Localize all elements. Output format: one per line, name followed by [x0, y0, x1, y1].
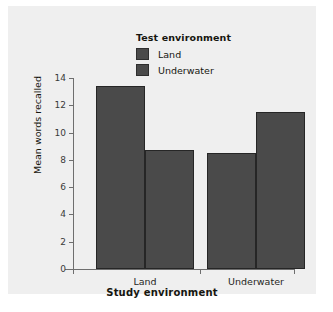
x-tick-start — [73, 269, 74, 274]
x-axis-title: Study environment — [8, 287, 316, 298]
y-tick-label: 14 — [55, 73, 66, 83]
legend-item-underwater: Underwater — [136, 64, 256, 76]
legend-item-land: Land — [136, 48, 256, 60]
y-tick-label: 10 — [55, 128, 66, 138]
y-tick-label: 2 — [60, 237, 66, 247]
plot-area: 0 2 4 6 8 10 12 14 — [73, 78, 295, 269]
x-category-label: Land — [133, 276, 156, 287]
legend-item-label: Land — [158, 49, 181, 60]
y-axis-title: Mean words recalled — [32, 76, 43, 174]
x-axis-line — [65, 269, 295, 270]
chart-legend: Test environment Land Underwater — [136, 32, 256, 80]
y-tick-label: 4 — [60, 209, 66, 219]
legend-swatch-icon — [136, 48, 149, 60]
bar-underwater-underwater — [256, 112, 305, 269]
bar-underwater-land — [207, 153, 256, 269]
y-axis-line — [73, 78, 74, 270]
bar-land-land — [96, 86, 145, 269]
legend-title: Test environment — [136, 32, 256, 43]
legend-item-label: Underwater — [158, 65, 214, 76]
y-tick-label: 12 — [55, 100, 66, 110]
bar-land-underwater — [145, 150, 194, 269]
y-tick-label: 8 — [60, 155, 66, 165]
y-tick-label: 0 — [60, 264, 66, 274]
legend-swatch-icon — [136, 64, 149, 76]
x-category-label: Underwater — [228, 276, 284, 287]
chart-figure: Test environment Land Underwater Mean wo… — [8, 6, 316, 294]
x-tick-middle — [200, 269, 201, 274]
x-tick-end — [294, 269, 295, 274]
y-tick-label: 6 — [60, 182, 66, 192]
